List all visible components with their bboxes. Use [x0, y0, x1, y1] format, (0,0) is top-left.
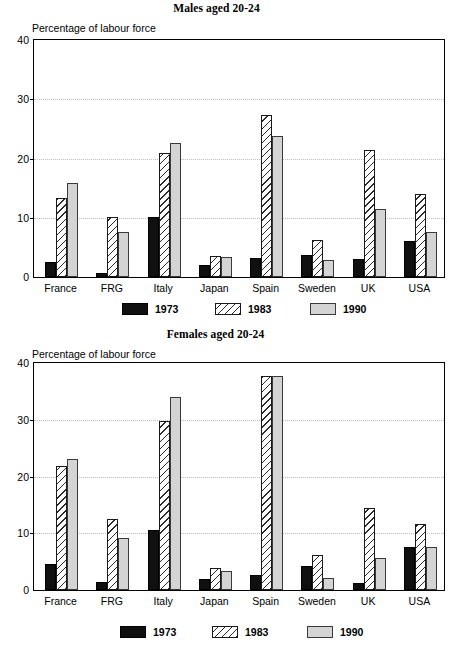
bar-uk-1983 — [364, 150, 375, 277]
x-tick-label-usa: USA — [386, 282, 451, 294]
bar-group-japan — [199, 40, 232, 277]
y-tick-mark-30 — [30, 420, 34, 421]
legend-item-1973: 1973 — [122, 301, 192, 317]
bar-usa-1990 — [426, 232, 437, 277]
bar-group-uk — [353, 40, 386, 277]
bar-france-1990 — [67, 183, 78, 277]
legend-swatch-1983 — [215, 303, 241, 315]
bar-usa-1973 — [404, 547, 415, 590]
bar-frg-1973 — [96, 582, 107, 591]
bar-frg-1983 — [107, 217, 118, 277]
y-tick-mark-10 — [30, 218, 34, 219]
bar-frg-1973 — [96, 273, 107, 277]
legend-item-1990: 1990 — [307, 624, 377, 640]
x-tick-label-usa: USA — [386, 595, 451, 607]
legend-swatch-1973 — [120, 626, 146, 638]
bar-frg-1983 — [107, 519, 118, 591]
legend-swatch-1990 — [307, 626, 333, 638]
bar-usa-1983 — [415, 524, 426, 590]
y-tick-label-10: 10 — [7, 213, 29, 223]
bar-sweden-1983 — [312, 240, 323, 277]
bar-group-uk — [353, 363, 386, 590]
bar-usa-1973 — [404, 241, 415, 277]
bar-spain-1973 — [250, 258, 261, 277]
y-tick-label-40: 40 — [7, 35, 29, 45]
bar-japan-1990 — [221, 257, 232, 277]
bar-group-sweden — [301, 40, 334, 277]
y-tick-label-40: 40 — [7, 358, 29, 368]
legend-item-1983: 1983 — [215, 301, 285, 317]
bar-spain-1990 — [272, 136, 283, 277]
bar-spain-1983 — [261, 376, 272, 591]
plot-area-males — [33, 39, 445, 278]
legend-item-1990: 1990 — [310, 301, 380, 317]
bar-japan-1990 — [221, 571, 232, 590]
legend-females: 197319831990 — [0, 624, 451, 640]
bar-spain-1990 — [272, 376, 283, 590]
bar-france-1973 — [45, 262, 56, 277]
chart-panel-females: Females aged 20-24 Percentage of labour … — [0, 326, 451, 648]
y-tick-label-20: 20 — [7, 154, 29, 164]
bar-japan-1983 — [210, 256, 221, 277]
bar-sweden-1983 — [312, 555, 323, 590]
bar-group-france — [45, 40, 78, 277]
bar-usa-1990 — [426, 547, 437, 590]
legend-item-1973: 1973 — [120, 624, 190, 640]
bar-italy-1990 — [170, 397, 181, 590]
y-axis-caption-females: Percentage of labour force — [32, 348, 156, 360]
legend-label-1983: 1983 — [245, 626, 268, 638]
bar-group-frg — [96, 363, 129, 590]
bar-sweden-1990 — [323, 260, 334, 277]
bar-frg-1990 — [118, 538, 129, 590]
bar-italy-1983 — [159, 421, 170, 590]
bar-group-spain — [250, 363, 283, 590]
bar-italy-1990 — [170, 143, 181, 277]
bar-spain-1973 — [250, 575, 261, 590]
bar-france-1973 — [45, 564, 56, 590]
y-tick-mark-20 — [30, 477, 34, 478]
legend-label-1990: 1990 — [340, 626, 363, 638]
bar-spain-1983 — [261, 115, 272, 277]
plot-area-females — [33, 362, 445, 591]
legend-label-1973: 1973 — [153, 626, 176, 638]
y-tick-mark-10 — [30, 533, 34, 534]
y-tick-label-10: 10 — [7, 528, 29, 538]
bar-sweden-1973 — [301, 566, 312, 590]
bar-france-1983 — [56, 198, 67, 277]
bar-uk-1990 — [375, 558, 386, 590]
y-tick-label-20: 20 — [7, 472, 29, 482]
chart-title-females: Females aged 20-24 — [0, 328, 451, 340]
bar-uk-1973 — [353, 583, 364, 590]
bar-usa-1983 — [415, 194, 426, 277]
bar-france-1983 — [56, 466, 67, 590]
bar-sweden-1990 — [323, 578, 334, 590]
figure-page: Males aged 20-24 Percentage of labour fo… — [0, 0, 451, 648]
bar-group-frg — [96, 40, 129, 277]
bar-italy-1973 — [148, 217, 159, 277]
y-tick-label-30: 30 — [7, 94, 29, 104]
legend-item-1983: 1983 — [212, 624, 282, 640]
bar-group-japan — [199, 363, 232, 590]
y-tick-label-30: 30 — [7, 415, 29, 425]
bar-uk-1990 — [375, 209, 386, 277]
bar-group-sweden — [301, 363, 334, 590]
bar-group-usa — [404, 363, 437, 590]
bar-japan-1983 — [210, 568, 221, 590]
bar-group-spain — [250, 40, 283, 277]
legend-males: 197319831990 — [0, 301, 451, 317]
bar-group-italy — [148, 40, 181, 277]
bar-group-usa — [404, 40, 437, 277]
y-tick-label-0: 0 — [7, 272, 29, 282]
legend-label-1973: 1973 — [155, 303, 178, 315]
bar-japan-1973 — [199, 265, 210, 277]
legend-swatch-1973 — [122, 303, 148, 315]
bar-uk-1973 — [353, 259, 364, 277]
legend-swatch-1983 — [212, 626, 238, 638]
chart-title-males: Males aged 20-24 — [0, 2, 451, 14]
y-tick-label-0: 0 — [7, 585, 29, 595]
bar-group-france — [45, 363, 78, 590]
chart-panel-males: Males aged 20-24 Percentage of labour fo… — [0, 0, 451, 326]
bar-italy-1983 — [159, 153, 170, 277]
y-tick-mark-30 — [30, 99, 34, 100]
bar-japan-1973 — [199, 579, 210, 590]
